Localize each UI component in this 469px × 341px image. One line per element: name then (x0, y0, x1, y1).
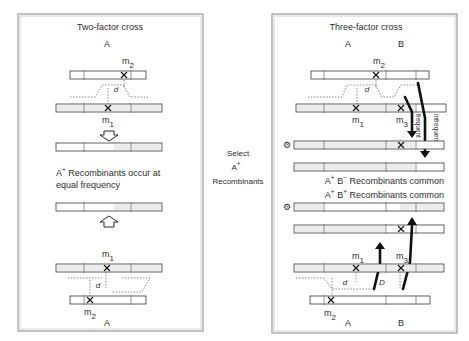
marker-m2-label-bottom: m2 (324, 308, 337, 322)
distance-d-label-bottom: d (343, 278, 348, 287)
marker-m1-label-bottom: m1 (352, 251, 365, 265)
distance-d-label: d (365, 85, 370, 94)
distance-D-label: D (379, 278, 385, 287)
gene-label-b-bottom: B (398, 318, 404, 328)
middle-line3: Recombinants (212, 177, 263, 186)
marker-m2-label-bottom: m2 (84, 307, 97, 321)
chromosome-m1-m3-bottom (294, 263, 444, 273)
gear-icon: ⚙ (283, 140, 291, 150)
chromosome-m2-bottom (70, 295, 146, 305)
chromosome-recombinant-selected-1 (294, 140, 444, 150)
chromosome-m2 (311, 70, 429, 80)
gene-label-a-top: A (345, 39, 351, 49)
frequent-label: frequent (414, 114, 422, 138)
chromosome-m1 (56, 103, 162, 113)
result-text-line2: equal frequency (56, 180, 121, 190)
chromosome-recombinant-2 (294, 162, 444, 172)
gene-label-a-bottom: A (104, 318, 110, 328)
chromosome-recombinant-top (56, 142, 162, 152)
infrequent-label: infrequent (432, 114, 440, 143)
marker-m1-label: m1 (352, 115, 365, 129)
distance-d-label: d (114, 85, 119, 94)
distance-d-label-bottom: d (96, 281, 101, 290)
chromosome-recombinant-4 (294, 224, 444, 234)
chromosome-recombinant-bottom (56, 202, 162, 212)
marker-m2-label: m2 (122, 56, 135, 70)
gene-label-b-top: B (398, 39, 404, 49)
marker-m3-label: m3 (396, 115, 409, 129)
marker-m2-label: m2 (373, 56, 386, 70)
chromosome-top-short (70, 70, 146, 80)
right-panel-frame (272, 14, 457, 333)
gene-label-a-bottom: A (345, 318, 351, 328)
chromosome-recombinant-selected-2 (294, 202, 444, 212)
recombination-diagram: Two-factor cross A m2 d m (0, 0, 469, 341)
chromosome-m2-bottom (310, 295, 430, 305)
two-factor-cross-panel: Two-factor cross A m2 d m (18, 14, 203, 331)
marker-m1-label-bottom: m1 (102, 249, 115, 263)
middle-line1: Select (227, 149, 250, 158)
marker-m3-label-bottom: m3 (396, 251, 409, 265)
three-factor-cross-panel: Three-factor cross A B m2 d (272, 14, 457, 333)
open-arrow-up-icon (100, 216, 118, 227)
open-arrow-down-icon (100, 131, 118, 141)
select-recombinants-caption: Select A+ Recombinants (212, 149, 263, 186)
middle-line2: A+ (231, 160, 240, 172)
gene-label-a-top: A (104, 39, 110, 49)
right-panel-title: Three-factor cross (329, 22, 403, 32)
chromosome-m1-bottom (56, 263, 162, 273)
result-text-line1: A+ Recombinants occur at (56, 166, 161, 178)
marker-m1-label: m1 (102, 115, 115, 129)
gear-icon: ⚙ (283, 202, 291, 212)
left-panel-title: Two-factor cross (77, 22, 144, 32)
result-a-plus-b-minus: A+ B− Recombinants common (325, 174, 444, 186)
result-a-plus-b-plus: A+ B+ Recombinants common (325, 188, 444, 200)
